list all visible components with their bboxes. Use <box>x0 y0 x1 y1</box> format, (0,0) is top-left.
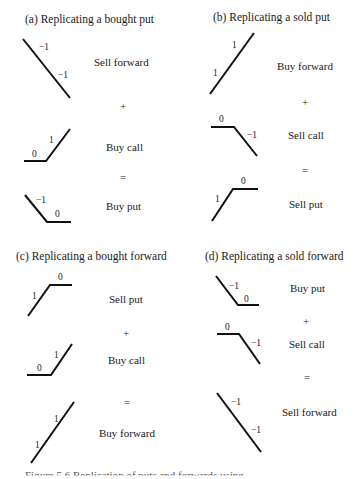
plus-operator: + <box>113 100 133 112</box>
payoff-slope-label: 1 <box>54 414 59 424</box>
payoff-slope-label: −1 <box>231 397 241 407</box>
row-label-buy-put: Buy put <box>290 282 325 294</box>
payoff-slope-label: −1 <box>58 70 68 80</box>
payoff-line-c-buy-call <box>27 344 72 375</box>
row-label-sell-call: Sell call <box>289 338 325 350</box>
row-label-sell-put: Sell put <box>289 198 323 210</box>
payoff-slope-label: 0 <box>244 294 249 304</box>
payoff-slope-label: 0 <box>55 209 60 219</box>
payoff-slope-label: 0 <box>219 114 224 124</box>
payoff-slope-label: −1 <box>229 281 239 291</box>
payoff-slope-label: 0 <box>241 176 246 186</box>
equals-operator: = <box>295 164 315 176</box>
row-label-buy-call: Buy call <box>106 141 143 153</box>
row-label-buy-forward: Buy forward <box>99 427 155 439</box>
payoff-line-c-buy-forward <box>31 402 74 463</box>
equals-operator: = <box>117 396 137 408</box>
payoff-slope-label: 1 <box>213 68 218 78</box>
payoff-slope-label: 1 <box>215 194 220 204</box>
panel-b-title: (b) Replicating a sold put <box>213 11 330 23</box>
payoff-slope-label: 0 <box>32 149 37 159</box>
payoff-slope-label: 1 <box>232 40 237 50</box>
payoff-slope-label: −1 <box>247 130 257 140</box>
plus-operator: + <box>296 315 316 327</box>
row-label-buy-put: Buy put <box>106 200 141 212</box>
panel-a-title: (a) Replicating a bought put <box>25 13 154 25</box>
payoff-line-a-buy-put <box>25 195 71 222</box>
row-label-sell-forward: Sell forward <box>282 406 337 418</box>
payoff-line-a-buy-call <box>24 129 70 161</box>
row-label-buy-call: Buy call <box>108 354 145 366</box>
equals-operator: = <box>113 171 133 183</box>
panel-c-title: (c) Replicating a bought forward <box>16 250 167 262</box>
panel-d-title: (d) Replicating a sold forward <box>205 250 344 262</box>
payoff-slope-label: 1 <box>35 440 40 450</box>
payoff-slope-label: 1 <box>32 291 37 301</box>
payoff-slope-label: 0 <box>58 272 63 282</box>
payoff-slope-label: 1 <box>49 135 54 145</box>
payoff-slope-label: −1 <box>251 338 261 348</box>
payoff-slope-label: −1 <box>39 42 49 52</box>
payoff-slope-label: 0 <box>225 322 230 332</box>
equals-operator: = <box>297 371 317 383</box>
payoff-slope-label: −1 <box>251 425 261 435</box>
plus-operator: + <box>116 327 136 339</box>
payoff-slope-label: 1 <box>54 350 59 360</box>
row-label-sell-forward: Sell forward <box>94 56 149 68</box>
plus-operator: + <box>295 96 315 108</box>
row-label-buy-forward: Buy forward <box>277 60 333 72</box>
payoff-slope-label: 0 <box>37 363 42 373</box>
row-label-sell-call: Sell call <box>288 129 324 141</box>
payoff-slope-label: −1 <box>36 195 46 205</box>
row-label-sell-put: Sell put <box>109 293 143 305</box>
